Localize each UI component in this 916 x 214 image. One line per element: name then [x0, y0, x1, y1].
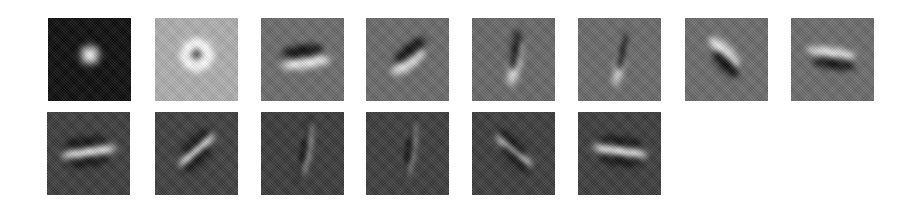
- filter-tile-13: [472, 112, 555, 195]
- filter-tile-8: [791, 18, 874, 101]
- filter-tile-9: [47, 112, 130, 195]
- filter-tile-11: [261, 112, 344, 195]
- filter-pattern: [366, 18, 449, 101]
- filter-pattern: [47, 112, 130, 195]
- filter-blob: [192, 50, 201, 59]
- filter-pattern: [578, 112, 661, 195]
- filter-pattern: [578, 18, 661, 101]
- filter-tile-10: [155, 112, 238, 195]
- filter-tile-7: [685, 18, 768, 101]
- filter-pattern: [155, 18, 238, 101]
- filter-pattern: [472, 18, 555, 101]
- filter-tile-1: [48, 18, 131, 101]
- filter-tile-2: [155, 18, 238, 101]
- filter-grid: [0, 0, 916, 214]
- filter-tile-4: [366, 18, 449, 101]
- filter-tile-3: [261, 18, 344, 101]
- filter-tile-5: [472, 18, 555, 101]
- filter-blob: [614, 30, 632, 73]
- filter-pattern: [261, 18, 344, 101]
- filter-pattern: [261, 112, 344, 195]
- filter-pattern: [48, 18, 131, 101]
- filter-tile-12: [366, 112, 449, 195]
- filter-pattern: [155, 112, 238, 195]
- filter-pattern: [791, 18, 874, 101]
- filter-blob: [83, 48, 97, 62]
- filter-pattern: [366, 112, 449, 195]
- filter-tile-6: [578, 18, 661, 101]
- filter-pattern: [472, 112, 555, 195]
- filter-pattern: [685, 18, 768, 101]
- filter-tile-14: [578, 112, 661, 195]
